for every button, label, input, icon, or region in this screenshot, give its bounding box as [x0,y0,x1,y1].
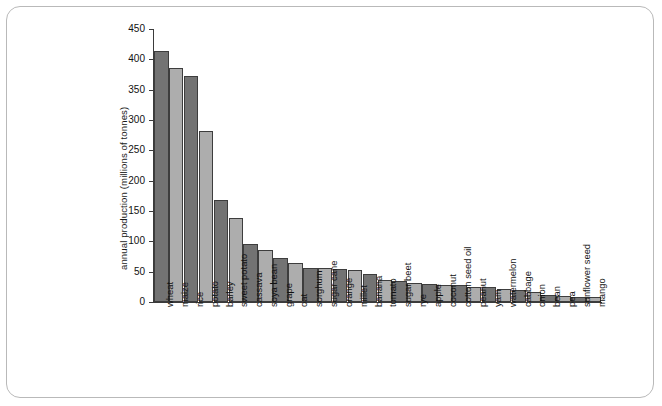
x-tick-label: yam [493,289,502,307]
bar-chart: annual production (millions of tonnes) 0… [0,0,662,406]
x-tick-label: cotton seed oil [463,247,472,307]
bar[interactable] [199,131,214,302]
y-tick-label: 350 [111,85,145,95]
x-tick-label: onion [537,284,546,307]
x-tick-label: apple [433,284,442,307]
y-tick-label: 100 [111,236,145,246]
y-tick-mark [149,120,153,121]
y-tick-label: 200 [111,176,145,186]
x-tick-label: sorghum [314,271,323,307]
x-tick-label: tomato [388,278,397,307]
y-tick-mark [149,150,153,151]
y-tick-mark [149,211,153,212]
x-tick-label: pea [567,291,576,307]
x-tick-label: sunflower seed [582,244,591,307]
x-tick-label: rice [195,292,204,307]
x-tick-label: millet [359,285,368,307]
y-tick-mark [149,59,153,60]
x-tick-label: rye [418,294,427,307]
x-tick-label: soya bean [269,264,278,307]
x-tick-label: banana [374,276,383,307]
x-tick-label: maize [180,282,189,307]
x-tick-label: mango [597,278,606,307]
x-tick-label: bean [552,286,561,307]
y-tick-mark [149,241,153,242]
y-tick-label: 150 [111,206,145,216]
y-tick-label: 400 [111,54,145,64]
x-tick-label: oat [299,294,308,307]
x-tick-label: sugar beet [403,263,412,307]
x-tick-label: cabbage [523,271,532,307]
y-tick-label: 300 [111,115,145,125]
y-tick-mark [149,181,153,182]
x-tick-label: sugar cane [329,261,338,307]
x-tick-label: wheat [165,282,174,307]
x-tick-label: barley [225,281,234,307]
x-tick-label: grape [284,283,293,307]
x-tick-label: orange [344,278,353,307]
bar[interactable] [154,51,169,302]
y-tick-mark [149,29,153,30]
x-tick-label: sweet potato [239,254,248,307]
y-tick-mark [149,272,153,273]
y-tick-label: 0 [111,297,145,307]
y-tick-label: 450 [111,24,145,34]
y-tick-mark [149,90,153,91]
y-tick-label: 250 [111,145,145,155]
bar[interactable] [169,68,184,302]
x-tick-label: watermelon [508,259,517,307]
x-tick-label: coconut [448,274,457,307]
x-tick-label: potato [210,281,219,307]
y-tick-mark [149,302,153,303]
x-tick-label: peanut [478,278,487,307]
x-tick-label: cassava [254,273,263,307]
bar[interactable] [184,76,199,302]
y-tick-label: 50 [111,267,145,277]
